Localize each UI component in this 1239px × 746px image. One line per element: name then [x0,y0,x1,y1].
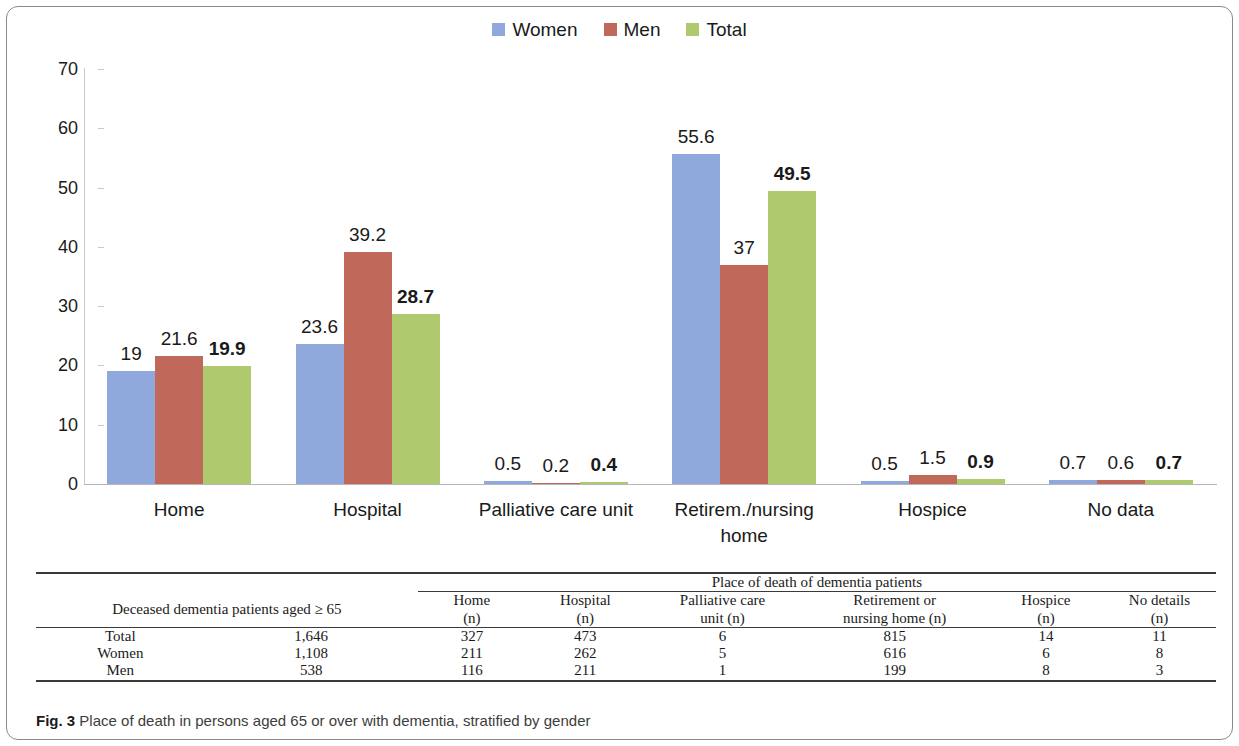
bar-men-5[interactable] [1097,480,1145,484]
table-cell-total-1: 473 [526,627,645,645]
table-cell-women-2: 5 [645,645,801,662]
table-row: Total1,64632747368151411 [36,627,1216,645]
y-axis-tick-10: 10 [34,414,78,435]
spacer-cell-b [205,573,418,592]
col-header-palliative-line1: Palliative care [645,592,801,610]
bar-men-1[interactable] [344,252,392,484]
bar-group-retirem-nursing-home: 55.63749.5 [672,69,816,484]
bar-men-4[interactable] [909,475,957,484]
x-axis-label-hospital: Hospital [283,497,451,523]
table-row-label-total: Total [36,627,205,645]
y-axis-tick-labels: 706050403020100 [20,0,78,560]
table-cell-total-5: 11 [1103,627,1216,645]
figure-number: Fig. 3 [36,712,75,729]
figure-caption-text: Place of death in persons aged 65 or ove… [79,712,590,729]
bar-value-label-women-5: 0.7 [1060,452,1086,474]
data-table: Place of death of dementia patients Dece… [36,572,1216,682]
bar-women-3[interactable] [672,154,720,484]
bar-value-label-total-1: 28.7 [397,286,434,308]
bar-total-1[interactable] [392,314,440,484]
bar-value-label-total-2: 0.4 [591,454,617,476]
bar-value-label-total-4: 0.9 [967,451,993,473]
bar-value-label-women-2: 0.5 [495,453,521,475]
bar-group-home: 1921.619.9 [107,69,251,484]
col-header-nodetails-line2: (n) [1103,610,1216,628]
table-column-header-row: Deceased dementia patients aged ≥ 65 Hom… [36,592,1216,610]
bar-value-label-women-4: 0.5 [871,453,897,475]
col-header-palliative-line2: unit (n) [645,610,801,628]
table-head: Place of death of dementia patients Dece… [36,573,1216,627]
bar-value-label-total-0: 19.9 [209,338,246,360]
figure-container: Women Men Total 706050403020100 1921.619… [0,0,1239,746]
table-cell-total-4: 14 [989,627,1103,645]
bar-value-label-total-3: 49.5 [774,163,811,185]
col-header-home-line2: (n) [418,610,526,628]
col-header-retirement-line2: nursing home (n) [800,610,989,628]
bar-value-label-men-4: 1.5 [919,447,945,469]
bar-value-label-men-5: 0.6 [1108,452,1134,474]
bar-total-3[interactable] [768,191,816,484]
table-row: Women1,108211262561668 [36,645,1216,662]
bar-total-4[interactable] [957,479,1005,484]
bar-men-0[interactable] [155,356,203,484]
table-row-label-men: Men [36,662,205,680]
table-group-header: Place of death of dementia patients [418,573,1216,592]
bar-value-label-women-0: 19 [121,343,142,365]
table-cell-total-0: 327 [418,627,526,645]
table-cell-women-0: 211 [418,645,526,662]
table-cell-men-3: 199 [800,662,989,680]
col-header-hospice-line2: (n) [989,610,1103,628]
x-axis-label-no-data: No data [1037,497,1205,523]
y-axis-tick-60: 60 [34,118,78,139]
bar-group-hospital: 23.639.228.7 [296,69,440,484]
col-header-retirement-line1: Retirement or [800,592,989,610]
bar-women-2[interactable] [484,481,532,484]
bar-women-0[interactable] [107,371,155,484]
bar-men-3[interactable] [720,265,768,484]
bar-value-label-men-2: 0.2 [543,455,569,477]
table-cell-total-3: 815 [800,627,989,645]
bar-men-2[interactable] [532,483,580,485]
table-row: Men538116211119983 [36,662,1216,680]
spacer-cell-a [36,573,205,592]
y-axis-tick-0: 0 [34,474,78,495]
table-cell-women-5: 8 [1103,645,1216,662]
bar-group-hospice: 0.51.50.9 [861,69,1005,484]
table-cell-total-n-total: 1,646 [205,627,418,645]
table-cell-total-n-men: 538 [205,662,418,680]
col-header-home-line1: Home [418,592,526,610]
x-axis-label-hospice: Hospice [848,497,1016,523]
table-cell-men-2: 1 [645,662,801,680]
bar-group-no-data: 0.70.60.7 [1049,69,1193,484]
table-cell-total-n-women: 1,108 [205,645,418,662]
y-axis-tick-50: 50 [34,177,78,198]
table-cell-men-1: 211 [526,662,645,680]
x-axis-label-retirem-nursing-home: Retirem./nursing home [660,497,828,548]
col-header-nodetails-line1: No details [1103,592,1216,610]
figure-caption: Fig. 3 Place of death in persons aged 65… [36,712,591,729]
bar-value-label-women-1: 23.6 [301,316,338,338]
x-axis-label-home: Home [95,497,263,523]
bar-women-4[interactable] [861,481,909,484]
data-table-container: Place of death of dementia patients Dece… [36,572,1216,682]
bar-total-5[interactable] [1145,480,1193,484]
table-row-group-header: Deceased dementia patients aged ≥ 65 [36,592,418,628]
plot-area: 1921.619.923.639.228.70.50.20.455.63749.… [85,69,1215,484]
col-header-hospital-line1: Hospital [526,592,645,610]
table-cell-men-4: 8 [989,662,1103,680]
bar-women-5[interactable] [1049,480,1097,484]
bar-total-0[interactable] [203,366,251,484]
table-cell-total-2: 6 [645,627,801,645]
y-axis-tick-20: 20 [34,355,78,376]
bar-value-label-men-0: 21.6 [161,328,198,350]
table-row-label-women: Women [36,645,205,662]
bar-total-2[interactable] [580,482,628,484]
x-axis-line [84,484,1217,485]
table-cell-women-3: 616 [800,645,989,662]
y-axis-tick-70: 70 [34,59,78,80]
bar-group-palliative-care-unit: 0.50.20.4 [484,69,628,484]
table-cell-men-0: 116 [418,662,526,680]
bar-value-label-total-5: 0.7 [1156,452,1182,474]
col-header-hospital-line2: (n) [526,610,645,628]
bar-women-1[interactable] [296,344,344,484]
